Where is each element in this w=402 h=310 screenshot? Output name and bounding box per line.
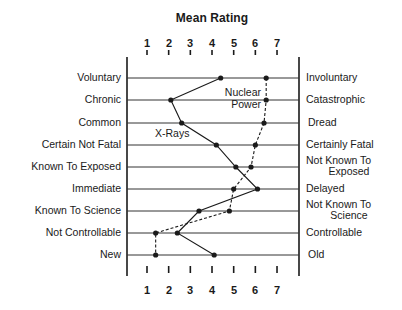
data-point-marker — [261, 120, 266, 125]
data-point-marker — [212, 252, 217, 257]
chart-title: Mean Rating — [120, 11, 304, 25]
row-label-left: New — [100, 249, 121, 260]
row-label-right: Old — [306, 249, 324, 260]
row-label-left: Chronic — [85, 94, 121, 105]
tick-label: 5 — [227, 284, 241, 296]
tick-label: 2 — [162, 284, 176, 296]
xrays-label: X-Rays — [155, 127, 189, 139]
row-label-left: Not Controllable — [46, 227, 121, 238]
row-label-left: Common — [78, 117, 121, 128]
row-label-left: Known To Science — [35, 205, 121, 216]
data-point-marker — [153, 230, 158, 235]
row-label-right-line1: Certainly Fatal — [306, 139, 374, 150]
row-label-left: Voluntary — [77, 72, 121, 83]
tick-label: 6 — [248, 37, 262, 49]
row-label-right: Controllable — [306, 227, 362, 238]
tick-label: 4 — [205, 284, 219, 296]
tick-label: 1 — [140, 37, 154, 49]
data-point-marker — [153, 252, 158, 257]
row-label-right: Certainly Fatal — [306, 139, 374, 150]
row-label-right-line1: Old — [306, 249, 324, 260]
row-label-left: Known To Exposed — [31, 161, 121, 172]
row-label-right: Not Known ToScience — [306, 199, 392, 221]
data-point-marker — [168, 97, 173, 102]
row-label-left: Certain Not Fatal — [42, 139, 121, 150]
data-point-marker — [253, 142, 258, 147]
row-label-right: Involuntary — [306, 72, 357, 83]
tick-label: 1 — [140, 284, 154, 296]
data-point-marker — [233, 164, 238, 169]
data-point-marker — [179, 120, 184, 125]
row-label-right-line1: Controllable — [306, 227, 362, 238]
row-label-right: Delayed — [306, 183, 345, 194]
row-label-right-line1: Involuntary — [306, 72, 357, 83]
tick-label: 3 — [183, 284, 197, 296]
nuclear-label-line1: Nuclear — [221, 86, 261, 98]
data-point-marker — [255, 186, 260, 191]
data-point-marker — [248, 164, 253, 169]
data-point-marker — [227, 208, 232, 213]
row-label-right-line1: Catastrophic — [306, 94, 365, 105]
data-point-marker — [231, 186, 236, 191]
tick-label: 3 — [183, 37, 197, 49]
nuclear-label-line2: Power — [221, 98, 261, 110]
row-label-right: Dread — [306, 117, 337, 128]
row-label-right-line2: Exposed — [306, 166, 392, 177]
tick-label: 5 — [227, 37, 241, 49]
row-label-right-line1: Delayed — [306, 183, 345, 194]
data-point-marker — [196, 208, 201, 213]
data-point-marker — [175, 230, 180, 235]
tick-label: 2 — [162, 37, 176, 49]
tick-label: 6 — [248, 284, 262, 296]
row-label-right-line1: Dread — [306, 117, 337, 128]
row-label-right-line2: Science — [306, 210, 392, 221]
data-point-marker — [214, 142, 219, 147]
row-label-left: Immediate — [72, 183, 121, 194]
row-label-right: Not Known ToExposed — [306, 155, 392, 177]
data-point-marker — [264, 75, 269, 80]
tick-label: 4 — [205, 37, 219, 49]
data-point-marker — [264, 97, 269, 102]
tick-label: 7 — [270, 284, 284, 296]
data-point-marker — [218, 75, 223, 80]
nuclear-power-label: Nuclear Power — [221, 86, 261, 110]
tick-label: 7 — [270, 37, 284, 49]
row-gridlines — [127, 78, 299, 255]
row-label-right: Catastrophic — [306, 94, 365, 105]
axes — [127, 50, 299, 276]
